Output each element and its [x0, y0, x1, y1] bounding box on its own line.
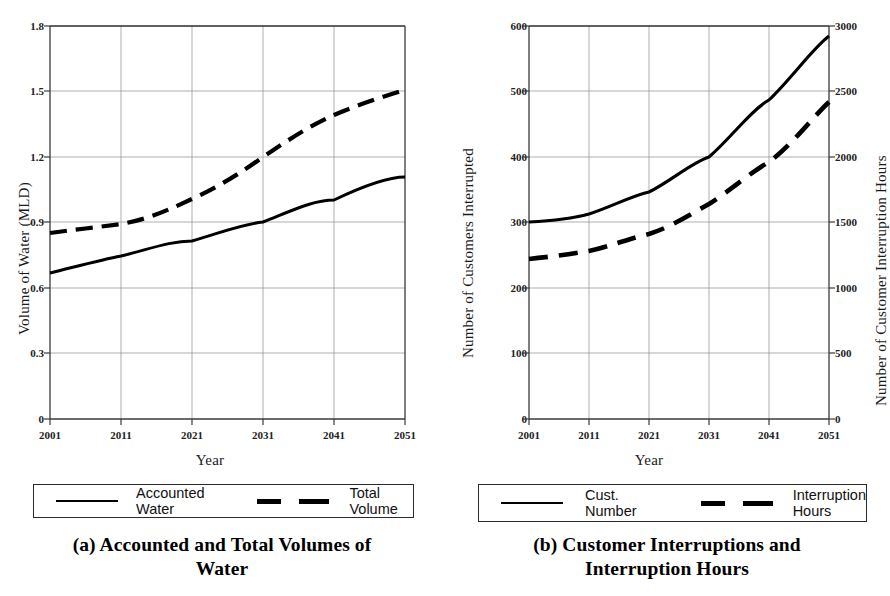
caption-b: (b) Customer Interruptions and Interrupt…	[445, 533, 889, 581]
legend-swatch-dashed-icon	[701, 501, 779, 506]
tick-marks	[44, 26, 405, 425]
legend-a: Accounted Water Total Volume	[33, 484, 414, 518]
caption-line: Water	[0, 557, 444, 581]
caption-line: (b) Customer Interruptions and	[445, 533, 889, 557]
axis-frame	[50, 26, 405, 419]
chart-b: Number of Customers Interrupted Number o…	[445, 0, 889, 470]
series-interruption-hours	[529, 102, 829, 259]
legend-swatch-dashed-icon	[257, 499, 335, 504]
chart-a: Volume of Water (MLD) 1.8 1.5 1.2 0.9 0.…	[0, 0, 444, 470]
legend-label: Cust. Number	[585, 487, 665, 519]
legend-entry: Total Volume	[257, 485, 413, 517]
legend-swatch-solid-icon	[501, 502, 563, 504]
legend-label: Total Volume	[349, 485, 413, 517]
legend-label: Interruption Hours	[793, 487, 866, 519]
legend-b: Cust. Number Interruption Hours	[478, 484, 867, 522]
legend-entry: Interruption Hours	[701, 487, 866, 519]
figure-panel-a: Volume of Water (MLD) 1.8 1.5 1.2 0.9 0.…	[0, 0, 444, 596]
plot-area-b	[445, 0, 889, 470]
plot-area-a	[0, 0, 444, 470]
legend-entry: Cust. Number	[501, 487, 665, 519]
figure-panel-b: Number of Customers Interrupted Number o…	[445, 0, 889, 596]
tick-marks	[523, 26, 835, 425]
caption-a: (a) Accounted and Total Volumes of Water	[0, 533, 444, 581]
grid-lines	[50, 26, 405, 419]
series-total-volume	[50, 90, 405, 233]
legend-swatch-solid-icon	[56, 500, 118, 502]
legend-label: Accounted Water	[136, 485, 225, 517]
caption-line: (a) Accounted and Total Volumes of	[0, 533, 444, 557]
series-cust-number	[529, 36, 829, 222]
legend-entry: Accounted Water	[56, 485, 225, 517]
caption-line: Interruption Hours	[445, 557, 889, 581]
